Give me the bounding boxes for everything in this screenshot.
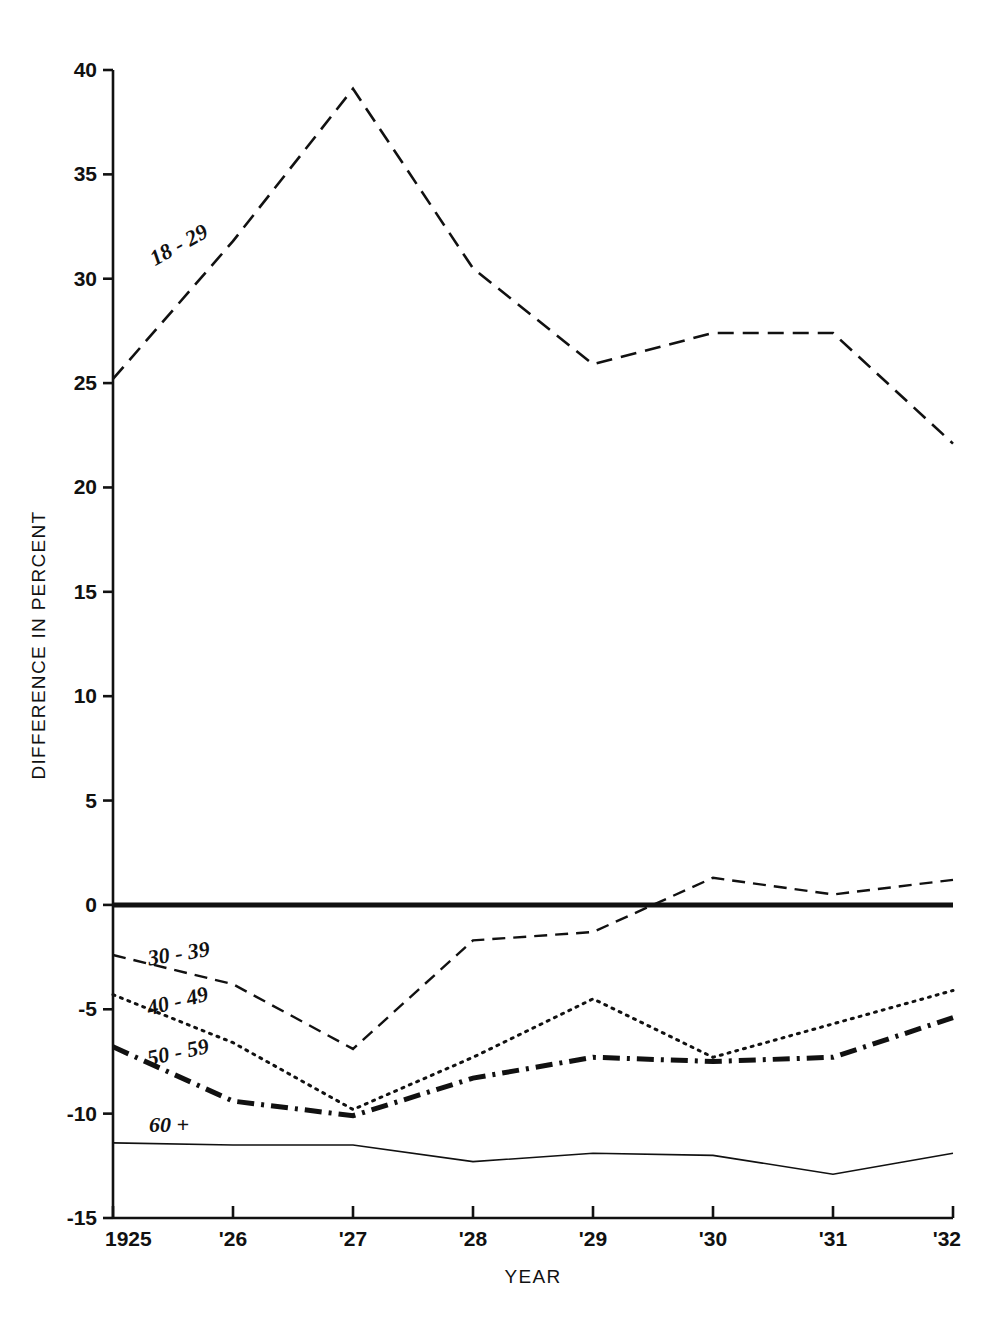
y-axis-tick-label: 15 [74,580,98,603]
y-axis-tick-label: 5 [85,789,97,812]
x-axis-tick-label: '31 [819,1227,848,1250]
y-axis-tick-label: 0 [85,893,97,916]
x-axis-tick-label: 1925 [105,1227,152,1250]
y-axis-tick-label: 25 [74,371,98,394]
y-axis-tick-label: 40 [74,58,97,81]
y-axis-tick-label: 35 [74,162,98,185]
x-axis-tick-label: '29 [579,1227,607,1250]
x-axis-title: YEAR [505,1266,562,1287]
y-axis-title: DIFFERENCE IN PERCENT [28,510,49,779]
y-axis-tick-label: 10 [74,684,97,707]
x-axis-tick-label: '30 [699,1227,727,1250]
x-axis-tick-label: '28 [459,1227,488,1250]
x-axis-tick-label: '27 [339,1227,367,1250]
y-axis-tick-label: -5 [78,997,97,1020]
x-axis-tick-label: '26 [219,1227,247,1250]
x-axis-tick-label: '32 [933,1227,961,1250]
y-axis-tick-label: 30 [74,267,97,290]
chart-figure: 4035302520151050-5-10-15 1925'26'27'28'2… [0,0,1007,1330]
series-label-60+: 60 + [149,1112,189,1137]
line-chart: 4035302520151050-5-10-15 1925'26'27'28'2… [0,0,1007,1330]
y-axis-tick-label: 20 [74,475,97,498]
y-axis-tick-label: -15 [67,1206,98,1229]
y-axis-tick-label: -10 [67,1102,97,1125]
